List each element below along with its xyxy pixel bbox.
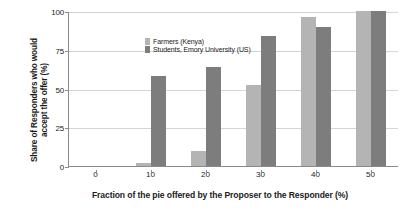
bar bbox=[261, 36, 276, 166]
y-axis-tick-label: 0 bbox=[42, 163, 64, 172]
x-axis-tickmark bbox=[261, 170, 262, 174]
bar bbox=[301, 17, 316, 166]
bar-group bbox=[343, 12, 398, 166]
bar bbox=[136, 163, 151, 166]
legend: Farmers (Kenya) Students, Emory Universi… bbox=[145, 38, 251, 53]
y-axis-tick-label: 100 bbox=[42, 8, 64, 17]
y-axis-tickmark bbox=[65, 167, 69, 168]
bar-group bbox=[288, 12, 343, 166]
bar-group bbox=[124, 12, 179, 166]
y-axis-tick-label: 50 bbox=[42, 85, 64, 94]
x-axis-tickmark bbox=[96, 170, 97, 174]
x-axis-tickmark bbox=[151, 170, 152, 174]
legend-label-farmers-kenya: Farmers (Kenya) bbox=[153, 38, 204, 45]
y-axis-title-line-1: Share of Responders who would bbox=[30, 38, 41, 162]
y-axis-tick-label: 25 bbox=[42, 124, 64, 133]
x-axis-tick-labels: 01020304050 bbox=[68, 170, 398, 184]
x-axis-tickmark bbox=[316, 170, 317, 174]
bar-group bbox=[69, 12, 124, 166]
bar bbox=[316, 27, 331, 167]
bar bbox=[371, 11, 386, 166]
legend-item-students-emory: Students, Emory University (US) bbox=[145, 46, 251, 53]
legend-swatch-icon-students-emory bbox=[145, 46, 150, 53]
bar bbox=[356, 11, 371, 166]
bar-group bbox=[179, 12, 234, 166]
legend-swatch-icon-farmers-kenya bbox=[145, 38, 150, 45]
x-axis-tickmark bbox=[206, 170, 207, 174]
x-axis-title: Fraction of the pie offered by the Propo… bbox=[40, 190, 400, 200]
plot-area: Farmers (Kenya) Students, Emory Universi… bbox=[68, 12, 398, 167]
bar bbox=[206, 67, 221, 166]
bar-chart: Share of Responders who would accept the… bbox=[0, 0, 412, 212]
bar-groups bbox=[69, 12, 398, 166]
legend-item-farmers-kenya: Farmers (Kenya) bbox=[145, 38, 251, 45]
y-axis-tick-labels: 0255075100 bbox=[42, 12, 64, 167]
x-axis-tickmark bbox=[371, 170, 372, 174]
bar bbox=[246, 85, 261, 166]
bar bbox=[191, 151, 206, 167]
bar bbox=[151, 76, 166, 166]
bar-group bbox=[233, 12, 288, 166]
legend-label-students-emory: Students, Emory University (US) bbox=[153, 46, 251, 53]
y-axis-tick-label: 75 bbox=[42, 46, 64, 55]
